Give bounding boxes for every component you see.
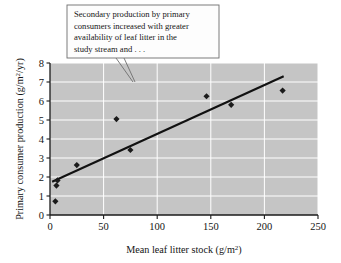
x-axis-title: Mean leaf litter stock (g/m2) [126,244,242,256]
callout-text-line: study stream and . . . [74,44,145,54]
y-tick-label: 8 [39,58,44,69]
x-tick-label: 100 [149,221,165,232]
x-tick-label: 50 [98,221,109,232]
y-tick-label: 5 [39,115,44,126]
y-tick-label: 0 [39,210,44,221]
y-tick-label: 7 [39,77,44,88]
y-tick-label: 6 [39,96,44,107]
x-tick-label: 250 [310,221,326,232]
callout-text-line: Secondary production by primary [74,9,190,19]
callout-text-line: consumers increased with greater [74,21,189,31]
y-tick-label: 4 [39,134,45,145]
x-tick-label: 150 [203,221,219,232]
x-tick-label: 0 [47,221,52,232]
x-tick-label: 200 [257,221,273,232]
y-axis-tick-labels: 012345678 [39,58,45,221]
y-tick-label: 1 [39,191,44,202]
callout-text-line: availability of leaf litter in the [74,32,177,42]
x-axis-tick-labels: 050100150200250 [47,221,326,232]
scatter-plot-figure: 012345678 050100150200250 Mean leaf litt… [0,0,341,263]
y-tick-label: 2 [39,172,44,183]
y-axis-title: Primary consumer production (g/m2/yr) [14,58,26,220]
y-tick-label: 3 [39,153,44,164]
